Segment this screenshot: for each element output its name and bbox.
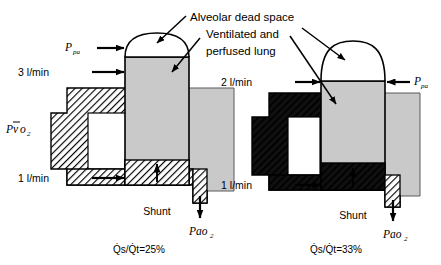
right-lung-unit (321, 41, 385, 190)
left-shunt-label: Shunt (143, 205, 171, 217)
right-shunt-label: Shunt (339, 209, 367, 221)
right-pao2-mid: ao (390, 228, 402, 240)
left-ppa-main: P (64, 41, 72, 53)
left-shunt-fraction-caption: Q̇s/Q̇t=25% (113, 243, 165, 255)
lung-shunt-diagram: 3 l/min 1 l/min P pa P v o 2 Shunt P ao … (0, 0, 441, 265)
left-inflow-bottom-label: 1 l/min (18, 172, 49, 184)
callout-line-alveolar-dead-space: Alveolar dead space (190, 11, 294, 23)
right-pao2-sub: 2 (404, 235, 408, 243)
right-shunt-fraction-caption: Q̇s/Q̇t=33% (310, 243, 362, 255)
right-venous-inner-void (288, 117, 320, 175)
callout-line-perfused-lung: perfused lung (206, 45, 276, 57)
left-pao2-main: P (188, 225, 196, 237)
left-pvo2-main: P (5, 123, 13, 135)
left-venous-inner-void (88, 113, 128, 169)
right-ppa-main: P (413, 75, 421, 87)
left-lung-unit (125, 33, 189, 185)
left-pao2-mid: ao (196, 225, 208, 237)
left-pao2-sub: 2 (210, 232, 214, 240)
left-pvo2-mid: o (20, 123, 26, 135)
right-inflow-bottom-label: 1 l/min (221, 179, 252, 191)
left-inflow-top-label: 3 l/min (18, 66, 49, 78)
left-ppa-sub: pa (72, 48, 81, 56)
left-pvo2-venous: v (13, 123, 19, 135)
callout-line-ventilated-and: Ventilated and (206, 28, 279, 40)
right-ppa-sub: pa (420, 82, 429, 90)
right-inflow-top-label: 2 l/min (221, 76, 252, 88)
left-pvo2-sub: 2 (27, 130, 31, 138)
right-pao2-main: P (382, 228, 390, 240)
